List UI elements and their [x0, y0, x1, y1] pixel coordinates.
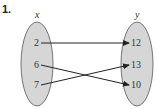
range-element: 13 — [131, 59, 141, 70]
domain-element: 7 — [34, 79, 39, 90]
domain-label: x — [34, 9, 40, 20]
domain-element: 2 — [34, 37, 39, 48]
range-label: y — [134, 9, 140, 20]
domain-element: 6 — [34, 59, 39, 70]
range-element: 10 — [131, 79, 141, 90]
mapping-diagram: x y 2 6 7 12 13 10 — [0, 0, 157, 109]
range-element: 12 — [131, 37, 141, 48]
